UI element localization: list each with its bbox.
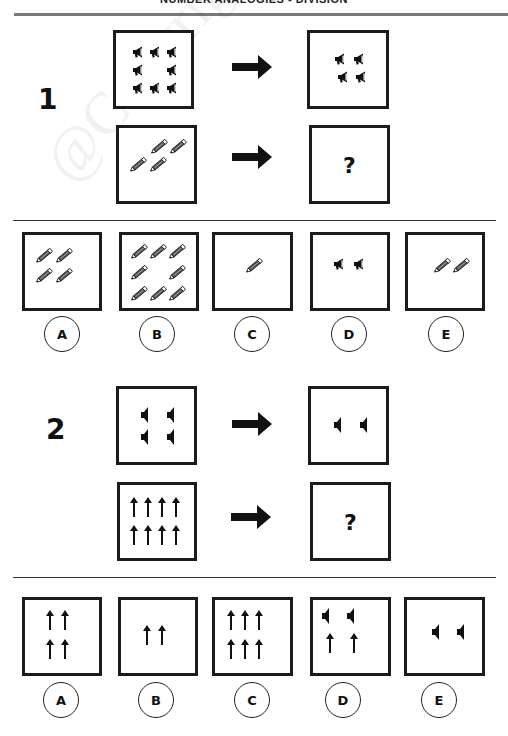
pencil-icon: [122, 235, 202, 314]
question-2-option-b-label[interactable]: B: [138, 682, 174, 718]
section-divider: [13, 220, 496, 221]
question-2-option-b-box[interactable]: [118, 597, 198, 676]
section-divider: [13, 577, 496, 578]
megaphone-icon: [310, 33, 392, 112]
question-1-option-d-box[interactable]: [310, 232, 390, 311]
question-1-option-b-box[interactable]: [119, 232, 199, 311]
question-mark: ?: [312, 152, 387, 177]
question-2-number: 2: [46, 413, 65, 446]
question-1-option-d-label[interactable]: D: [331, 316, 367, 352]
right-arrow-icon: [232, 55, 272, 79]
question-1-query-from-box: [116, 125, 197, 204]
question-1-answer-box[interactable]: ?: [309, 125, 390, 204]
question-1-option-a-box[interactable]: [22, 232, 102, 311]
top-rule: [14, 13, 508, 16]
question-2-option-a-label[interactable]: A: [43, 682, 79, 718]
speaker-icon: [311, 389, 392, 468]
question-1-option-c-label[interactable]: C: [234, 316, 270, 352]
question-1-option-e-label[interactable]: E: [428, 316, 464, 352]
pencil-icon: [25, 235, 105, 314]
question-2-option-d-box[interactable]: [310, 597, 391, 676]
question-2-query-from-box: [117, 482, 197, 561]
question-1-premise-to-box: [307, 30, 389, 109]
right-arrow-icon: [232, 412, 272, 436]
question-2-premise-to-box: [308, 386, 389, 465]
right-arrow-icon: [231, 505, 271, 529]
megaphone-icon: [313, 235, 393, 314]
up-arrow-icon: [215, 600, 296, 679]
question-1-option-e-box[interactable]: [405, 232, 485, 311]
pencil-icon: [408, 235, 488, 314]
question-mark: ?: [313, 509, 388, 534]
speaker-icon: [407, 600, 488, 679]
up-arrow-icon: [120, 485, 200, 564]
up-arrow-icon: [121, 600, 201, 679]
question-1-number: 1: [38, 83, 57, 116]
question-2-option-e-label[interactable]: E: [421, 682, 457, 718]
speaker-icon: [119, 389, 200, 468]
up-arrow-icon: [25, 600, 105, 679]
question-2-option-e-box[interactable]: [404, 597, 485, 676]
pencil-icon: [215, 235, 296, 314]
question-2-option-c-box[interactable]: [212, 597, 293, 676]
megaphone-icon: [116, 33, 197, 112]
question-2-answer-box[interactable]: ?: [310, 482, 391, 561]
page-header-title: NUMBER ANALOGIES - DIVISION: [0, 0, 508, 5]
question-2-premise-from-box: [116, 386, 197, 465]
speaker-and-up-arrow-icons: [313, 600, 394, 679]
question-1-option-a-label[interactable]: A: [44, 316, 80, 352]
question-2-option-d-label[interactable]: D: [325, 682, 361, 718]
question-1-option-c-box[interactable]: [212, 232, 293, 311]
question-2-option-c-label[interactable]: C: [234, 682, 270, 718]
question-1-option-b-label[interactable]: B: [139, 316, 175, 352]
right-arrow-icon: [232, 145, 272, 169]
question-1-premise-from-box: [113, 30, 194, 109]
pencil-icon: [119, 128, 200, 207]
question-2-option-a-box[interactable]: [22, 597, 102, 676]
